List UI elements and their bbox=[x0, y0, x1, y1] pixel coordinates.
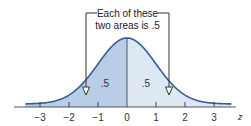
axis-tick-label: 2 bbox=[182, 112, 188, 123]
right-area-label: .5 bbox=[142, 78, 151, 89]
callout-line-2: two areas is .5 bbox=[95, 20, 160, 31]
left-area-fill bbox=[26, 38, 128, 107]
right-area-fill bbox=[127, 38, 231, 107]
axis-tick-label: −2 bbox=[63, 112, 75, 123]
axis-tick-label: 3 bbox=[211, 112, 217, 123]
axis-tick-label: 0 bbox=[124, 112, 130, 123]
axis-tick-label: −1 bbox=[92, 112, 104, 123]
axis-variable-label: z bbox=[237, 112, 243, 122]
callout-line-1: Each of these bbox=[97, 8, 159, 19]
left-area-label: .5 bbox=[101, 78, 110, 89]
axis-tick-label: 1 bbox=[153, 112, 159, 123]
axis-tick-label: −3 bbox=[34, 112, 46, 123]
normal-curve-diagram: −3−2−10123 z .5 .5 Each of these two are… bbox=[0, 0, 251, 126]
